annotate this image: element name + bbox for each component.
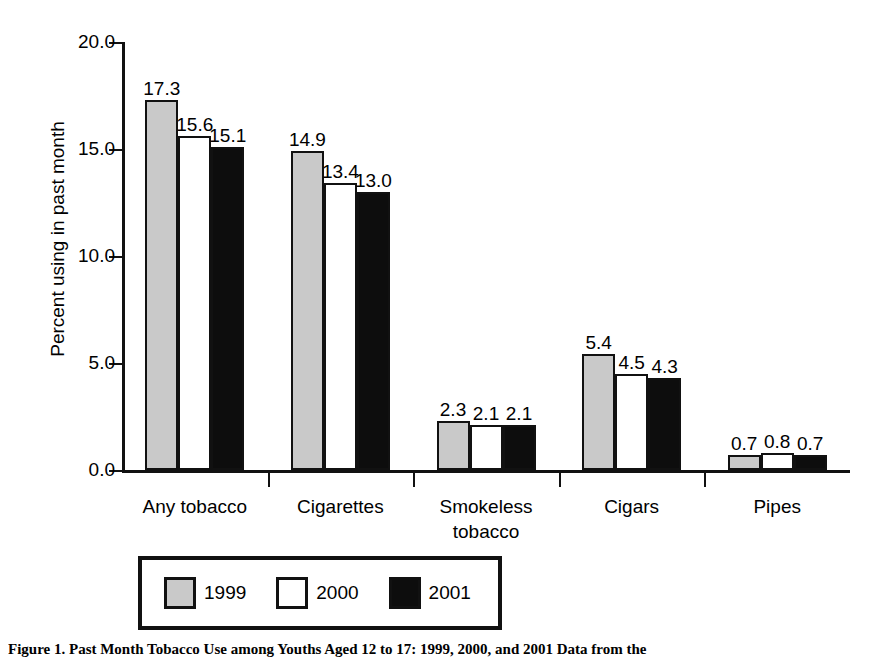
y-tick-label: 0.0 <box>89 459 115 481</box>
x-axis-line <box>122 470 850 473</box>
x-tick-mark <box>559 473 561 487</box>
bar-value-label: 4.3 <box>651 356 677 378</box>
bar-2000-any-tobacco: 15.6 <box>178 136 211 470</box>
y-tick-label: 5.0 <box>89 352 115 374</box>
bar-2000-smokeless-tobacco: 2.1 <box>470 425 503 470</box>
plot-area: 0.05.010.015.020.0 17.315.615.114.913.41… <box>122 42 850 470</box>
bar-value-label: 15.6 <box>176 114 213 136</box>
legend-box: 199920002001 <box>138 556 502 630</box>
bar-value-label: 15.1 <box>209 125 246 147</box>
legend-item-2001: 2001 <box>389 577 471 609</box>
bar-2000-cigars: 4.5 <box>615 374 648 470</box>
bar-2000-cigarettes: 13.4 <box>324 183 357 470</box>
category-label-smokeless-tobacco: Smokelesstobacco <box>440 494 533 544</box>
category-label-line: Smokeless <box>440 494 533 519</box>
category-label-line: Cigarettes <box>297 494 384 519</box>
y-tick-label: 15.0 <box>78 138 115 160</box>
legend-label-1999: 1999 <box>204 582 246 604</box>
y-tick-label: 10.0 <box>78 245 115 267</box>
bar-1999-smokeless-tobacco: 2.3 <box>437 421 470 470</box>
legend-label-2000: 2000 <box>316 582 358 604</box>
legend-label-2001: 2001 <box>429 582 471 604</box>
x-tick-mark <box>268 473 270 487</box>
bar-value-label: 17.3 <box>143 78 180 100</box>
bar-value-label: 2.3 <box>440 399 466 421</box>
category-label-line: Pipes <box>753 494 801 519</box>
bar-value-label: 5.4 <box>585 332 611 354</box>
legend-swatch-1999 <box>164 577 196 609</box>
bar-2001-cigarettes: 13.0 <box>357 192 390 470</box>
category-label-any-tobacco: Any tobacco <box>143 494 248 519</box>
bar-value-label: 0.7 <box>731 433 757 455</box>
bar-2001-any-tobacco: 15.1 <box>211 147 244 470</box>
legend-swatch-2001 <box>389 577 421 609</box>
bar-value-label: 13.0 <box>355 170 392 192</box>
bar-1999-cigars: 5.4 <box>582 354 615 470</box>
bar-value-label: 14.9 <box>289 129 326 151</box>
bar-value-label: 0.8 <box>764 431 790 453</box>
category-label-line: Cigars <box>604 494 659 519</box>
category-label-cigarettes: Cigarettes <box>297 494 384 519</box>
category-label-pipes: Pipes <box>753 494 801 519</box>
legend-swatch-2000 <box>276 577 308 609</box>
bar-2000-pipes: 0.8 <box>761 453 794 470</box>
bar-value-label: 4.5 <box>618 352 644 374</box>
bar-2001-smokeless-tobacco: 2.1 <box>503 425 536 470</box>
y-axis-line <box>122 42 125 471</box>
category-label-cigars: Cigars <box>604 494 659 519</box>
bar-1999-cigarettes: 14.9 <box>291 151 324 470</box>
bar-2001-pipes: 0.7 <box>794 455 827 470</box>
figure-caption: Figure 1. Past Month Tobacco Use among Y… <box>8 641 868 658</box>
legend-item-2000: 2000 <box>276 577 358 609</box>
bar-1999-pipes: 0.7 <box>728 455 761 470</box>
bar-1999-any-tobacco: 17.3 <box>145 100 178 470</box>
x-tick-mark <box>413 473 415 487</box>
y-axis-label: Percent using in past month <box>47 29 69 449</box>
category-label-line: Any tobacco <box>143 494 248 519</box>
bar-2001-cigars: 4.3 <box>648 378 681 470</box>
bar-value-label: 0.7 <box>797 433 823 455</box>
y-tick-label: 20.0 <box>78 31 115 53</box>
legend-item-1999: 1999 <box>164 577 246 609</box>
category-label-line: tobacco <box>440 519 533 544</box>
bar-value-label: 13.4 <box>322 161 359 183</box>
bar-value-label: 2.1 <box>473 403 499 425</box>
x-tick-mark <box>704 473 706 487</box>
bar-value-label: 2.1 <box>506 403 532 425</box>
